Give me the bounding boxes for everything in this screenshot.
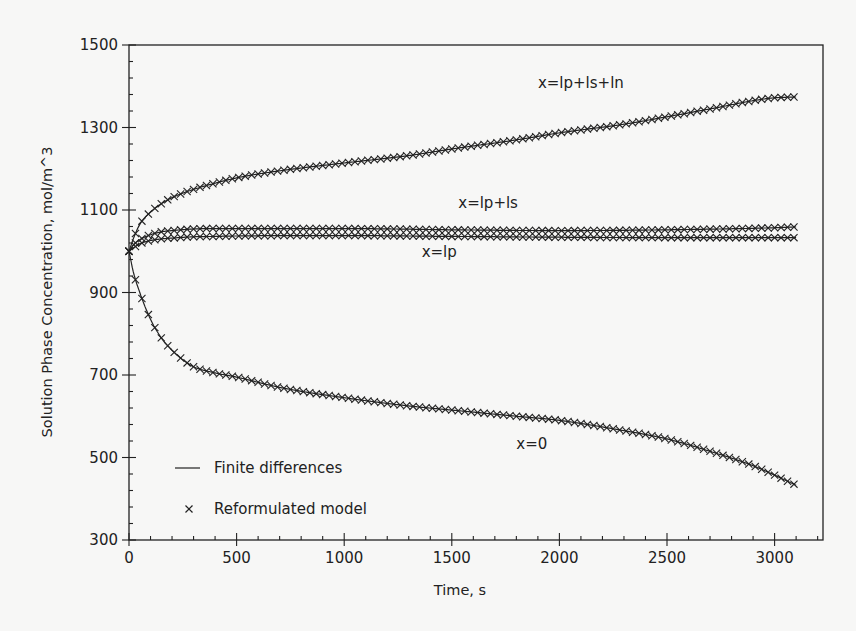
x-marker xyxy=(138,295,145,302)
x-marker xyxy=(151,205,158,212)
legend-label-finite-differences: Finite differences xyxy=(214,459,343,477)
legend: Finite differences Reformulated model xyxy=(175,459,367,518)
x-marker xyxy=(190,363,197,370)
x-marker xyxy=(790,481,797,488)
x-marker xyxy=(752,463,759,470)
x-marker xyxy=(222,177,229,184)
data-markers xyxy=(125,93,797,487)
x-marker xyxy=(164,342,171,349)
x-tick-label: 2500 xyxy=(648,549,686,567)
x-tick-label: 1000 xyxy=(325,549,363,567)
x-marker xyxy=(151,230,158,237)
chart: 050010001500200025003000 300500700900110… xyxy=(0,0,856,631)
x-marker xyxy=(171,349,178,356)
y-tick-label: 500 xyxy=(89,449,118,467)
x-marker xyxy=(777,475,784,482)
x-marker xyxy=(145,311,152,318)
y-axis-title: Solution Phase Concentration, mol/m^3 xyxy=(39,147,55,438)
x-marker xyxy=(694,444,701,451)
x-marker xyxy=(687,442,694,449)
x-marker xyxy=(132,276,139,283)
x-marker xyxy=(713,450,720,457)
x-axis-title: Time, s xyxy=(433,582,486,598)
x-tick-label: 2000 xyxy=(540,549,578,567)
x-marker xyxy=(138,218,145,225)
x-tick-label: 0 xyxy=(124,549,134,567)
x-marker xyxy=(190,186,197,193)
x-marker xyxy=(674,438,681,445)
x-tick-label: 500 xyxy=(222,549,251,567)
x-marker xyxy=(719,452,726,459)
x-marker xyxy=(242,375,249,382)
data-curves xyxy=(129,97,796,485)
x-marker xyxy=(784,478,791,485)
x-marker xyxy=(158,334,165,341)
x-marker xyxy=(177,354,184,361)
x-marker xyxy=(138,239,145,246)
x-marker xyxy=(184,188,191,195)
x-marker xyxy=(261,380,268,387)
x-marker xyxy=(151,324,158,331)
x-tick-label: 3000 xyxy=(756,549,794,567)
x-marker xyxy=(706,448,713,455)
curve-label: x=lp xyxy=(422,243,457,261)
x-marker xyxy=(732,456,739,463)
x-marker xyxy=(177,190,184,197)
x-marker xyxy=(771,472,778,479)
curve-label: x=0 xyxy=(516,435,547,453)
y-tick-label: 700 xyxy=(89,366,118,384)
y-tick-label: 1300 xyxy=(80,119,118,137)
x-marker xyxy=(739,458,746,465)
x-marker xyxy=(758,466,765,473)
x-marker xyxy=(765,469,772,476)
x-marker xyxy=(216,178,223,185)
x-marker xyxy=(203,182,210,189)
x-marker xyxy=(158,200,165,207)
curve-label: x=lp+ls+ln xyxy=(538,74,624,92)
y-tick-label: 1500 xyxy=(80,36,118,54)
x-tick-label: 1500 xyxy=(433,549,471,567)
y-tick-label: 1100 xyxy=(80,201,118,219)
x-marker xyxy=(196,184,203,191)
legend-label-reformulated-model: Reformulated model xyxy=(214,500,367,518)
x-marker xyxy=(681,440,688,447)
y-tick-label: 300 xyxy=(89,531,118,549)
x-marker xyxy=(745,460,752,467)
curve-annotations: x=lp+ls+lnx=lp+lsx=lpx=0 xyxy=(422,74,624,453)
x-marker xyxy=(132,230,139,237)
x-marker xyxy=(184,359,191,366)
x-marker xyxy=(700,446,707,453)
legend-x-marker-icon xyxy=(186,506,193,513)
y-axis-ticks: 300500700900110013001500 xyxy=(80,36,136,549)
x-marker xyxy=(248,377,255,384)
x-marker xyxy=(726,454,733,461)
curve-label: x=lp+ls xyxy=(458,194,518,212)
x-marker xyxy=(209,180,216,187)
y-tick-label: 900 xyxy=(89,284,118,302)
x-marker xyxy=(196,366,203,373)
curve-x-0 xyxy=(129,251,796,485)
x-axis-ticks: 050010001500200025003000 xyxy=(124,533,817,567)
